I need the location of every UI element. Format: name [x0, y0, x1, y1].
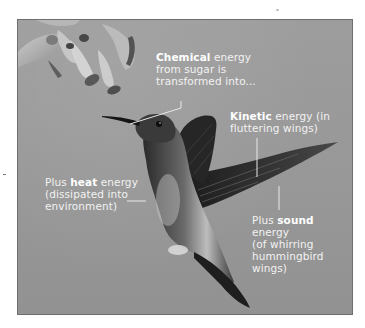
bird-beak — [102, 116, 140, 126]
flower-cluster — [18, 20, 135, 96]
label-sound-keyword: sound — [277, 214, 313, 226]
margin-mark — [3, 174, 6, 175]
bird-head — [135, 114, 175, 143]
label-kinetic-energy: Kinetic energy (in fluttering wings) — [230, 110, 330, 134]
label-chemical-energy: Chemical energy from sugar is transforme… — [156, 51, 256, 87]
label-heat-energy: Plus heat energy (dissipated into enviro… — [45, 176, 138, 212]
hummingbird-figure: Chemical energy from sugar is transforme… — [17, 19, 353, 315]
bird-eye — [156, 121, 162, 127]
label-kinetic-keyword: Kinetic — [230, 110, 272, 122]
label-chemical-keyword: Chemical — [156, 51, 211, 63]
scan-speck — [276, 9, 279, 11]
label-sound-energy: Plus sound energy (of whirring hummingbi… — [252, 214, 323, 274]
label-heat-keyword: heat — [70, 176, 97, 188]
